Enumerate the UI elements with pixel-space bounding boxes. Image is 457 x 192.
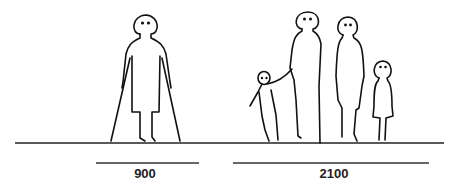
small-child-figure [250, 69, 292, 141]
right-crutch [162, 58, 180, 141]
family-group-figures [250, 12, 393, 143]
dimension-label-family: 2100 [320, 166, 349, 181]
woman-figure [336, 17, 364, 141]
dimension-label-crutches: 900 [134, 166, 156, 181]
older-child-figure [373, 61, 393, 140]
left-crutch [111, 58, 130, 141]
diagram-canvas: 900 2100 [0, 0, 457, 192]
person-with-crutches-figure [111, 15, 180, 141]
tall-adult-figure [290, 12, 321, 143]
